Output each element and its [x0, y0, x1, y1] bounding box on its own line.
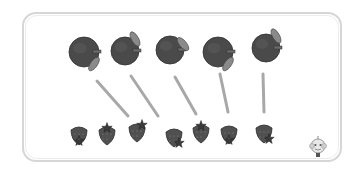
- apple-icon[interactable]: [111, 30, 142, 65]
- match-line[interactable]: [175, 77, 196, 114]
- monkey-mascot-icon: [310, 136, 327, 157]
- strawberry-icon[interactable]: [99, 123, 115, 146]
- strawberry-icon[interactable]: [129, 120, 147, 143]
- strawberry-icon[interactable]: [193, 121, 209, 144]
- matching-lines: [97, 74, 264, 116]
- apple-icon[interactable]: [252, 27, 283, 62]
- apple-icon[interactable]: [156, 36, 191, 64]
- match-line[interactable]: [97, 81, 128, 116]
- match-line[interactable]: [131, 76, 158, 116]
- strawberry-row: [71, 120, 274, 148]
- apple-icon[interactable]: [203, 37, 235, 73]
- strawberry-icon[interactable]: [256, 125, 274, 143]
- matching-scene: [0, 0, 363, 172]
- strawberry-icon[interactable]: [166, 129, 184, 147]
- match-line[interactable]: [220, 74, 228, 112]
- strawberry-icon[interactable]: [221, 126, 237, 144]
- apple-icon[interactable]: [69, 37, 101, 73]
- apple-row: [69, 27, 283, 72]
- strawberry-icon[interactable]: [71, 127, 87, 145]
- match-line[interactable]: [263, 74, 264, 112]
